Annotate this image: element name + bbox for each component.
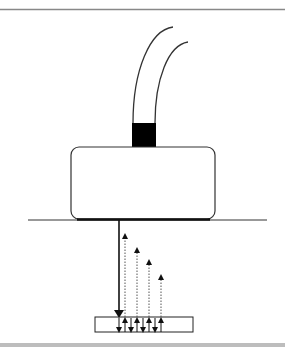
bottom-bar <box>0 343 285 347</box>
cable-left <box>133 27 173 123</box>
transducer-body <box>71 147 215 219</box>
cable-right <box>155 42 188 123</box>
transducer-diagram <box>0 0 285 352</box>
connector-block <box>132 123 156 148</box>
slab <box>95 317 193 332</box>
